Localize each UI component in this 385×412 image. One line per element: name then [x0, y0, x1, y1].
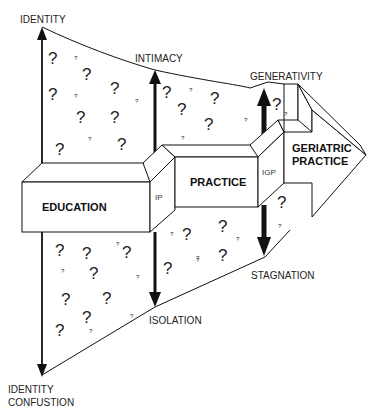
svg-text:?: ?	[170, 231, 174, 237]
practice-label: PRACTICE	[190, 176, 246, 188]
intimacy-arrow-up	[149, 70, 161, 158]
geriatric-label-line1: GERIATRIC	[292, 142, 352, 154]
svg-text:?: ?	[189, 87, 193, 93]
identity-label: IDENTITY	[20, 14, 66, 25]
svg-text:?: ?	[272, 95, 281, 114]
svg-text:?: ?	[48, 49, 57, 68]
svg-text:?: ?	[61, 268, 65, 274]
svg-text:?: ?	[55, 241, 64, 260]
svg-text:?: ?	[55, 140, 64, 159]
svg-text:?: ?	[61, 290, 70, 309]
svg-text:?: ?	[277, 193, 286, 212]
svg-text:?: ?	[182, 225, 191, 244]
svg-text:?: ?	[117, 135, 126, 154]
svg-text:?: ?	[102, 289, 111, 308]
svg-text:?: ?	[236, 236, 240, 242]
svg-text:?: ?	[210, 89, 219, 108]
svg-text:?: ?	[130, 313, 134, 319]
education-label: EDUCATION	[42, 201, 107, 213]
isolation-label: ISOLATION	[149, 315, 202, 326]
svg-text:?: ?	[116, 241, 120, 247]
career-development-diagram: EDUCATION IP PRACTICE IGP GERIATRIC PRAC…	[0, 0, 385, 412]
svg-text:?: ?	[76, 108, 85, 127]
svg-text:?: ?	[181, 135, 185, 141]
svg-text:?: ?	[135, 98, 139, 104]
ip-label: IP	[155, 193, 163, 202]
svg-text:?: ?	[74, 93, 78, 99]
svg-text:?: ?	[48, 85, 57, 104]
svg-text:?: ?	[88, 136, 92, 142]
svg-text:?: ?	[244, 117, 248, 123]
svg-text:?: ?	[82, 65, 91, 84]
svg-text:?: ?	[110, 79, 119, 98]
svg-text:?: ?	[82, 244, 91, 263]
svg-text:?: ?	[82, 308, 91, 327]
svg-text:?: ?	[122, 243, 131, 262]
svg-text:?: ?	[162, 83, 171, 102]
geriatric-label-line2: PRACTICE	[292, 155, 348, 167]
generativity-label: GENERATIVITY	[250, 71, 323, 82]
svg-text:?: ?	[163, 259, 172, 278]
svg-text:?: ?	[196, 257, 200, 263]
svg-text:?: ?	[110, 108, 119, 127]
lower-envelope	[42, 230, 290, 375]
svg-text:?: ?	[89, 264, 98, 283]
svg-text:?: ?	[177, 100, 186, 119]
stagnation-arrow-down	[257, 205, 271, 256]
igp-label: IGP	[262, 168, 276, 177]
isolation-arrow-down	[149, 232, 161, 307]
svg-text:?: ?	[74, 55, 78, 61]
svg-text:?: ?	[55, 321, 64, 340]
identity-confusion-arrow-down	[37, 232, 47, 377]
identity-confusion-label-line2: CONFUSTION	[8, 397, 74, 408]
svg-text:?: ?	[218, 246, 227, 265]
svg-text:?: ?	[89, 328, 93, 334]
svg-text:?: ?	[278, 223, 282, 229]
identity-arrow-up	[37, 27, 47, 176]
svg-text:?: ?	[218, 217, 227, 236]
svg-text:?: ?	[136, 274, 140, 280]
svg-text:?: ?	[204, 115, 213, 134]
identity-confusion-label-line1: IDENTITY	[8, 384, 54, 395]
stagnation-label: STAGNATION	[251, 270, 315, 281]
intimacy-label: INTIMACY	[135, 53, 183, 64]
education-box	[22, 163, 150, 232]
